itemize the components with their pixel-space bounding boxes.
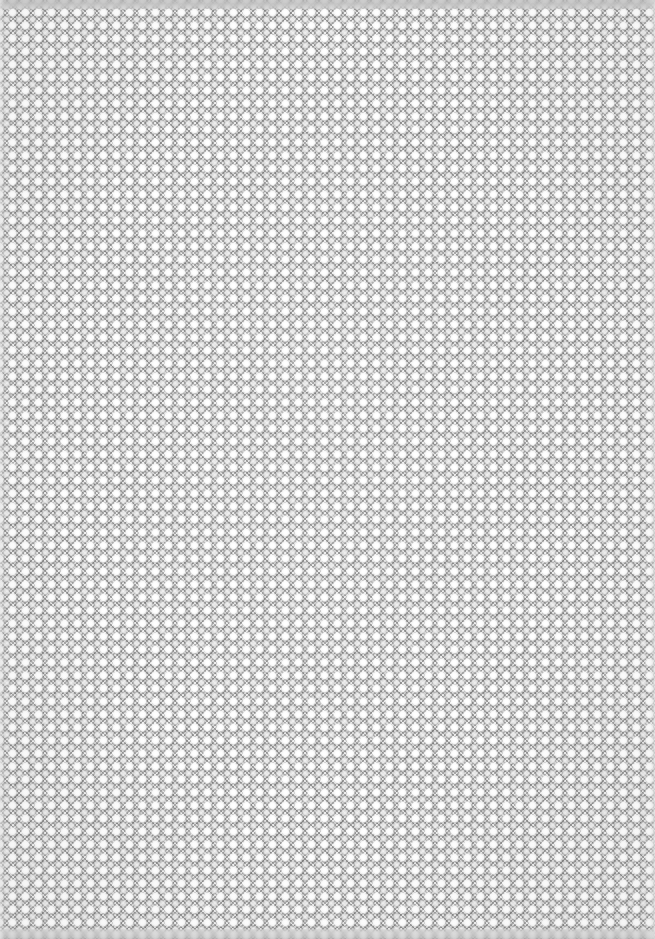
right-edge-strip <box>649 0 655 939</box>
white-dot-lattice-layer <box>0 0 655 939</box>
diagonal-crosshatch-layer <box>0 0 655 939</box>
checkerboard-dither-layer <box>0 0 655 939</box>
texture-canvas <box>0 0 655 939</box>
left-edge-strip <box>0 0 6 939</box>
tone-vignette-layer <box>0 0 655 939</box>
dark-diamond-lattice-layer <box>0 0 655 939</box>
bottom-blur-band <box>0 929 655 939</box>
top-blur-band <box>0 0 655 9</box>
white-dot-lattice-offset-layer <box>0 0 655 939</box>
